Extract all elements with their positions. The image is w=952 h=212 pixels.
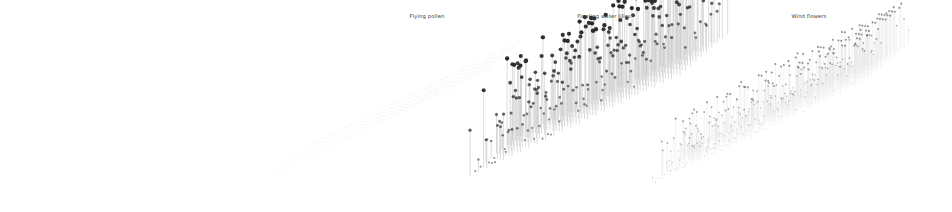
panel-title-floating-water-lilies: Floating water lilies — [577, 13, 631, 19]
stem-plot-figure: Flying pollen Floating water lilies Wind… — [0, 0, 952, 212]
panel-title-flying-pollen: Flying pollen — [410, 13, 445, 19]
panel-title-wind-flowers: Wind flowers — [791, 13, 826, 19]
panel-titles-layer: Flying pollen Floating water lilies Wind… — [0, 0, 952, 212]
